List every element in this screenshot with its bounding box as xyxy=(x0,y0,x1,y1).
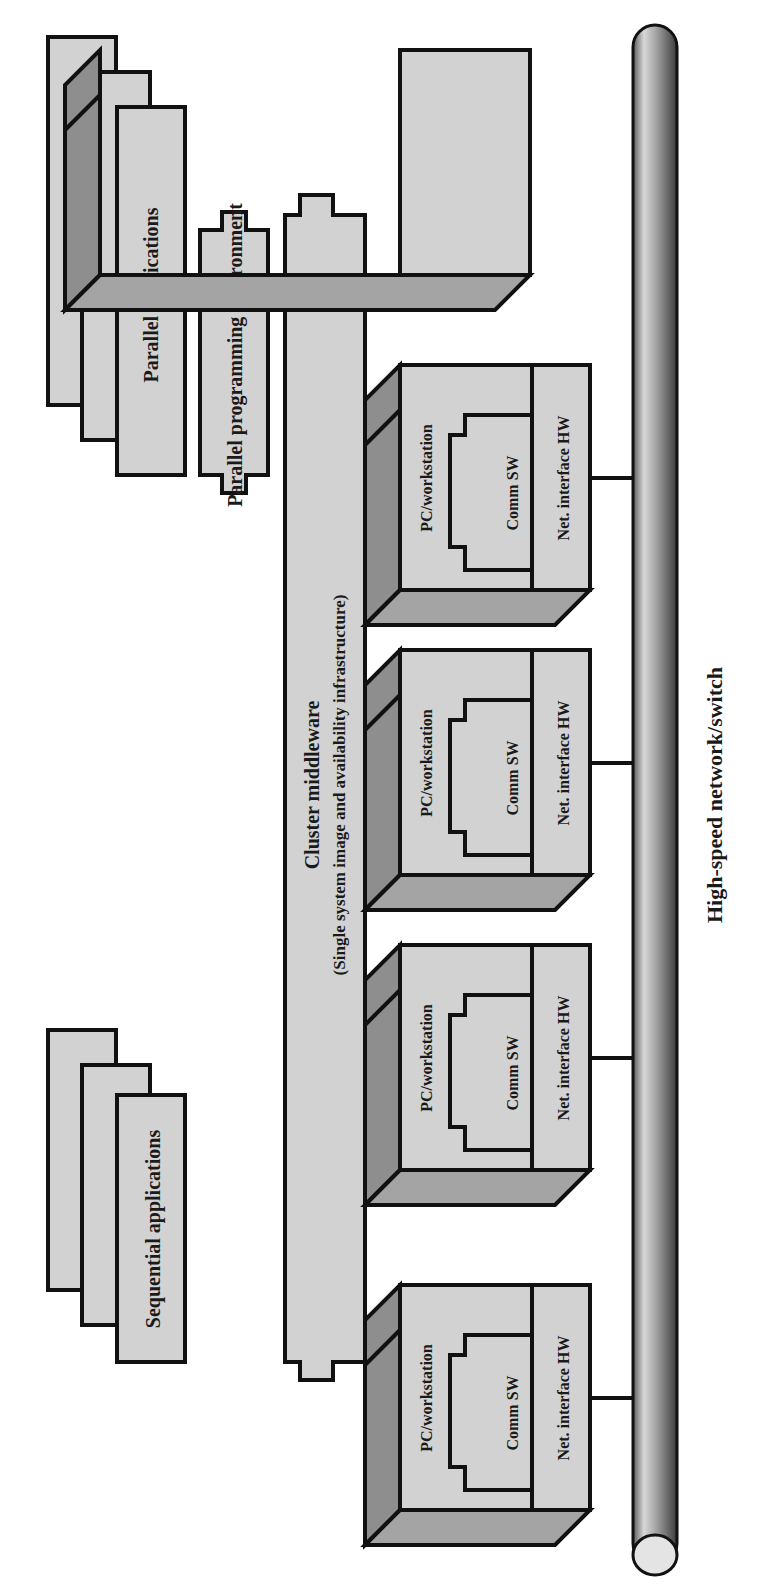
comm-sw-label: Comm SW xyxy=(504,1035,521,1110)
comm-sw-label: Comm SW xyxy=(504,455,521,530)
node-4: PC/workstation Comm SW Net. interface HW xyxy=(365,365,645,625)
parallel-programming-environment: Parallel programming environment xyxy=(200,203,268,507)
nic-label: Net. interface HW xyxy=(555,701,572,826)
comm-sw-label: Comm SW xyxy=(504,1375,521,1450)
pc-label: PC/workstation xyxy=(418,1004,435,1112)
network-switch: High-speed network/switch xyxy=(633,25,727,1575)
cluster-middleware-subtitle: (Single system image and availability in… xyxy=(330,595,349,976)
sequential-applications-label: Sequential applications xyxy=(142,1130,165,1329)
cluster-middleware: Cluster middleware (Single system image … xyxy=(285,195,365,1380)
nic-label: Net. interface HW xyxy=(555,996,572,1121)
pc-label: PC/workstation xyxy=(418,1344,435,1452)
node-3: PC/workstation Comm SW Net. interface HW xyxy=(365,650,645,910)
parallel-programming-environment-label: Parallel programming environment xyxy=(224,203,247,507)
comm-sw-label: Comm SW xyxy=(504,740,521,815)
cluster-architecture-diagram: Sequential applications Parallel applica… xyxy=(0,0,758,1595)
node-1: PC/workstation Comm SW Net. interface HW xyxy=(365,1285,645,1545)
pc-label: PC/workstation xyxy=(418,709,435,817)
nic-label: Net. interface HW xyxy=(555,1336,572,1461)
pc-label: PC/workstation xyxy=(418,424,435,532)
cluster-middleware-title: Cluster middleware xyxy=(301,701,323,870)
sequential-applications-stack: Sequential applications xyxy=(48,1030,185,1362)
node-2: PC/workstation Comm SW Net. interface HW xyxy=(365,945,645,1205)
nic-label: Net. interface HW xyxy=(555,416,572,541)
network-label: High-speed network/switch xyxy=(702,667,727,923)
